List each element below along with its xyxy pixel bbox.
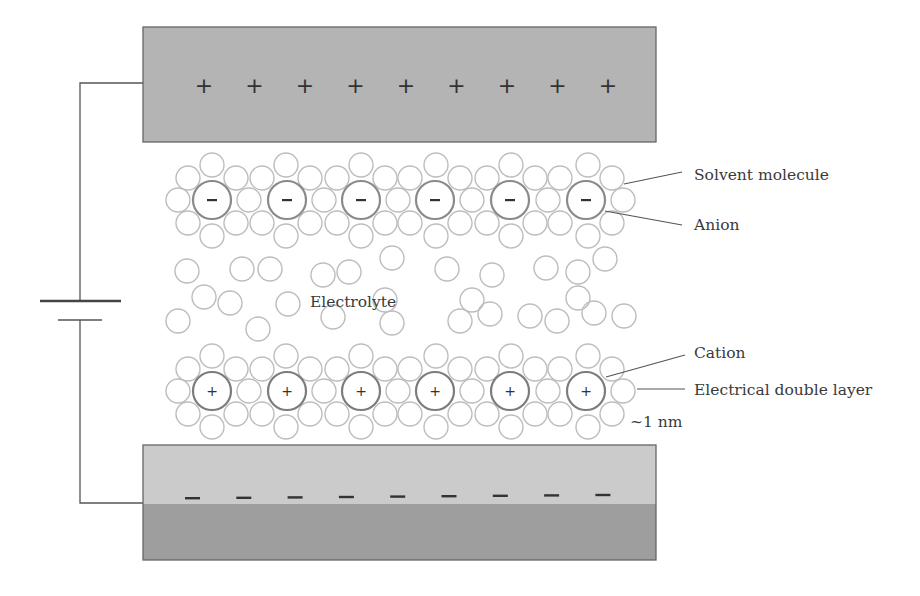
solvent-molecule-icon [480, 263, 504, 287]
solvent-molecule-icon [224, 402, 248, 426]
solvent-molecule-icon [373, 166, 397, 190]
solvent-molecule-icon [566, 260, 590, 284]
solvent-molecule-icon [576, 344, 600, 368]
solvent-molecule-icon [576, 415, 600, 439]
minus-sign-icon [493, 495, 508, 497]
solvent-molecule-icon [200, 344, 224, 368]
solvent-molecule-icon [224, 357, 248, 381]
callout-lines [605, 172, 685, 389]
solvent-molecule-icon [250, 402, 274, 426]
plus-sign-icon: + [346, 73, 364, 98]
electrolyte-label: Electrolyte [310, 293, 396, 311]
solvent-molecule-icon [218, 291, 242, 315]
solvent-molecule-icon [600, 211, 624, 235]
solvent-molecule-icon [166, 379, 190, 403]
solvent-molecule-icon [224, 211, 248, 235]
solvent-molecule-icon [175, 259, 199, 283]
solvent-molecule-icon [298, 402, 322, 426]
solvent-molecule-icon [312, 379, 336, 403]
anion-icon [342, 181, 380, 219]
solvent-molecule-icon [576, 153, 600, 177]
solvent-molecule-icon [582, 301, 606, 325]
solvent-molecule-icon [349, 224, 373, 248]
anion-icon [193, 181, 231, 219]
solvent-molecule-icon [435, 257, 459, 281]
solvent-molecule-icon [176, 357, 200, 381]
solvent-molecule-icon [192, 285, 216, 309]
negative-electrode [143, 445, 656, 560]
plus-sign-icon: + [397, 73, 415, 98]
solvent-molecule-icon [499, 224, 523, 248]
solvent-molecule-icon [200, 224, 224, 248]
plus-sign-icon: + [548, 73, 566, 98]
minus-sign-icon [185, 497, 200, 499]
solvent-molecule-icon [448, 309, 472, 333]
solvent-molecule-icon [548, 166, 572, 190]
solvent-molecule-icon [250, 211, 274, 235]
solvent-molecule-icon [523, 357, 547, 381]
wire-top [80, 83, 143, 301]
external-circuit [40, 83, 143, 503]
solvent-molecule-icon [246, 317, 270, 341]
svg-text:+: + [206, 383, 218, 399]
solvent-molecule-icon [274, 224, 298, 248]
solvent-molecule-icon [337, 260, 361, 284]
solvent-molecule-icon [424, 153, 448, 177]
solvent-molecule-icon [460, 288, 484, 312]
svg-text:+: + [429, 383, 441, 399]
solvent-molecule-icon [349, 344, 373, 368]
plus-sign-icon: + [195, 73, 213, 98]
solvent-molecule-icon [536, 188, 560, 212]
solvent-molecule-icon [176, 211, 200, 235]
solvent-molecule-icon [349, 415, 373, 439]
solvent-molecule-icon [311, 263, 335, 287]
solvent-molecule-icon [373, 402, 397, 426]
solvent-molecule-icon [258, 257, 282, 281]
solvent-molecule-icon [611, 379, 635, 403]
solvent-molecule-icon [237, 188, 261, 212]
solvent-molecule-icon [499, 344, 523, 368]
solvent-molecule-icon [576, 224, 600, 248]
anion-icon [567, 181, 605, 219]
edlc-diagram: +++++++++ ++++++ Solvent molecule Anion … [0, 0, 920, 596]
cation-icon: + [193, 372, 231, 410]
solvent-molecule-icon [534, 256, 558, 280]
solvent-molecule-icon [475, 402, 499, 426]
solvent-molecule-icon [424, 344, 448, 368]
minus-sign-icon [339, 496, 354, 498]
svg-text:+: + [504, 383, 516, 399]
solvent-molecule-icon [523, 402, 547, 426]
minus-sign-icon [236, 497, 251, 499]
solvent-callout-line [624, 172, 682, 184]
solvent-molecule-icon [166, 309, 190, 333]
anion-callout-line [605, 211, 682, 225]
minus-sign-icon [288, 496, 303, 498]
solvent-molecule-icon [424, 415, 448, 439]
solvent-molecule-icon [200, 153, 224, 177]
plus-sign-icon: + [447, 73, 465, 98]
solvent-molecule-icon [386, 188, 410, 212]
svg-text:+: + [580, 383, 592, 399]
solvent-molecule-icon [276, 292, 300, 316]
positive-charges: +++++++++ [195, 73, 617, 98]
solvent-molecule-icon [424, 224, 448, 248]
solvent-molecule-icon [478, 302, 502, 326]
solvent-molecule-icon [448, 211, 472, 235]
solvent-molecule-icon [398, 402, 422, 426]
solvent-molecule-icon [545, 309, 569, 333]
solvent-molecule-icon [200, 415, 224, 439]
solvent-molecule-icon [325, 402, 349, 426]
ions: ++++++ [193, 181, 605, 410]
solvent-molecule-icon [448, 166, 472, 190]
solvent-molecule-icon [448, 357, 472, 381]
cation-icon: + [491, 372, 529, 410]
solvent-molecule-icon [398, 357, 422, 381]
solvent-molecule-icon [499, 153, 523, 177]
svg-text:+: + [281, 383, 293, 399]
solvent-molecule-icon [518, 304, 542, 328]
solvent-molecule-icon [380, 311, 404, 335]
solvent-molecule-icon [548, 211, 572, 235]
thickness-label: ~1 nm [630, 413, 683, 431]
anion-icon [416, 181, 454, 219]
plus-sign-icon: + [296, 73, 314, 98]
